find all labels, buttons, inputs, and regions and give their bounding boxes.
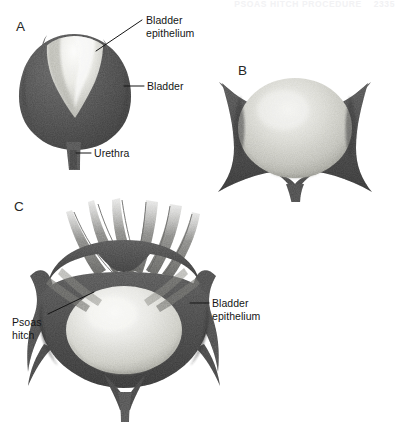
illustration-artwork: [0, 0, 403, 424]
panel-b-artwork: [218, 78, 372, 205]
label-bladder-epithelium-c: Bladder epithelium: [212, 297, 260, 322]
label-bladder-epithelium-a: Bladder epithelium: [146, 14, 194, 39]
panel-letter-c: C: [14, 200, 24, 214]
figure-root: PSOAS HITCH PROCEDURE2335: [0, 0, 403, 424]
label-bladder-a: Bladder: [147, 80, 184, 93]
panel-letter-a: A: [16, 20, 25, 34]
panel-c-artwork: [27, 198, 220, 422]
panel-letter-b: B: [238, 64, 247, 78]
label-urethra-a: Urethra: [94, 147, 129, 160]
label-psoas-hitch-c: Psoas hitch: [12, 316, 41, 341]
